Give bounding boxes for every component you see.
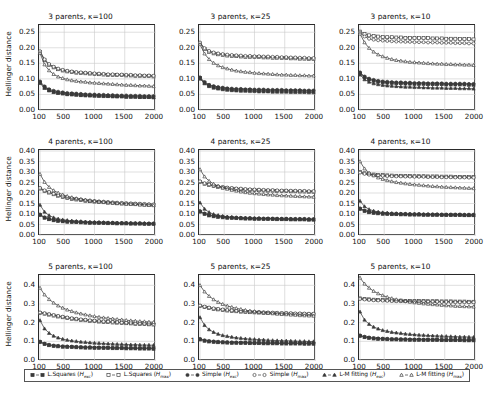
panel-title: 5 parents, κ=10 xyxy=(322,262,479,271)
x-tick-label: 1500 xyxy=(275,112,293,121)
series-2 xyxy=(199,76,315,92)
chart-panel-8: 5 parents, κ=250.00.10.20.30.41005001000… xyxy=(162,262,319,384)
series-1 xyxy=(359,30,475,41)
y-tick-label: 0.10 xyxy=(322,209,355,218)
plot-canvas xyxy=(199,275,316,361)
legend-marker-triangle-filled xyxy=(322,371,337,379)
series-4 xyxy=(38,82,155,99)
legend-marker-triangle-open xyxy=(399,371,414,379)
y-tick-label: 0.2 xyxy=(322,317,355,326)
legend-label-text: Simple ( xyxy=(270,371,294,377)
x-tick-label: 1000 xyxy=(244,112,262,121)
legend-label-text: Simple ( xyxy=(202,371,226,377)
legend-label-text: L-M fitting ( xyxy=(416,371,449,377)
y-tick-label: 0.05 xyxy=(162,89,195,98)
x-tick-label: 500 xyxy=(56,237,70,246)
legend-label-tail: ) xyxy=(383,371,385,377)
series-4 xyxy=(198,201,315,221)
series-5 xyxy=(38,51,155,87)
legend-label: L-M fitting (Hmax) xyxy=(416,371,464,379)
legend-label-text: L.Squares ( xyxy=(48,371,80,377)
plot-canvas xyxy=(39,150,156,236)
plot-canvas xyxy=(359,275,476,361)
y-tick-label: 0.15 xyxy=(162,198,195,207)
legend-item-simple-max[interactable]: Simple (Hmax) xyxy=(252,371,308,379)
plot-canvas xyxy=(359,25,476,111)
y-tick-label: 0.25 xyxy=(322,177,355,186)
y-tick-label: 0.00 xyxy=(322,230,355,239)
y-tick-label: 0.0 xyxy=(2,355,35,364)
y-tick-label: 0.1 xyxy=(322,336,355,345)
x-tick-label: 1500 xyxy=(435,112,453,121)
legend-marker-circle-open xyxy=(252,371,267,379)
x-tick-label: 1000 xyxy=(84,237,102,246)
legend-label: L.Squares (Hexc) xyxy=(48,371,93,379)
plot-canvas xyxy=(359,150,476,236)
y-tick-label: 0.3 xyxy=(162,299,195,308)
x-tick-label: 1000 xyxy=(84,112,102,121)
y-tick-label: 0.40 xyxy=(322,146,355,155)
series-3 xyxy=(199,180,315,193)
y-tick-label: 0.00 xyxy=(2,105,35,114)
plot-canvas xyxy=(199,25,316,111)
legend: L.Squares (Hexc)L.Squares (Hmax)Simple (… xyxy=(24,369,470,382)
series-3 xyxy=(359,171,475,179)
series-4 xyxy=(358,73,475,90)
y-tick-label: 0.00 xyxy=(322,105,355,114)
series-5 xyxy=(358,32,475,66)
plot-area xyxy=(38,274,155,360)
plot-area xyxy=(358,274,475,360)
x-tick-label: 100 xyxy=(32,237,46,246)
y-tick-label: 0.30 xyxy=(322,167,355,176)
legend-item-lsquares-exc[interactable]: L.Squares (Hexc) xyxy=(30,371,93,379)
panel-title: 3 parents, κ=100 xyxy=(2,12,159,21)
x-tick-label: 1500 xyxy=(435,237,453,246)
legend-label-text: L.Squares ( xyxy=(124,371,156,377)
y-tick-label: 0.0 xyxy=(162,355,195,364)
legend-label-subscript: max xyxy=(160,375,169,380)
y-axis-label: Hellinger distance xyxy=(4,287,13,347)
plot-area xyxy=(198,274,315,360)
legend-item-lm-fitting-exc[interactable]: L-M fitting (Hexc) xyxy=(322,371,385,379)
y-tick-label: 0.25 xyxy=(162,27,195,36)
y-tick-label: 0.25 xyxy=(322,27,355,36)
chart-panel-6: 4 parents, κ=100.000.050.100.150.200.250… xyxy=(322,137,479,259)
x-tick-label: 2000 xyxy=(305,112,323,121)
x-tick-label: 100 xyxy=(192,112,206,121)
chart-panel-4: 4 parents, κ=1000.000.050.100.150.200.25… xyxy=(2,137,159,259)
series-1 xyxy=(39,311,155,326)
series-1 xyxy=(199,305,315,316)
panel-title: 3 parents, κ=25 xyxy=(162,12,319,21)
y-tick-label: 0.4 xyxy=(322,280,355,289)
y-tick-label: 0.40 xyxy=(162,146,195,155)
plot-canvas xyxy=(39,25,156,111)
plot-area xyxy=(358,24,475,110)
legend-item-simple-exc[interactable]: Simple (Hexc) xyxy=(185,371,239,379)
y-tick-label: 0.00 xyxy=(162,105,195,114)
legend-item-lsquares-max[interactable]: L.Squares (Hmax) xyxy=(106,371,171,379)
legend-label-tail: ) xyxy=(462,371,464,377)
legend-item-lm-fitting-max[interactable]: L-M fitting (Hmax) xyxy=(399,371,464,379)
chart-panel-7: 5 parents, κ=1000.00.10.20.30.4100500100… xyxy=(2,262,159,384)
plot-area xyxy=(198,149,315,235)
chart-panel-1: 3 parents, κ=1000.000.050.100.150.200.25… xyxy=(2,12,159,134)
y-tick-label: 0.00 xyxy=(162,230,195,239)
y-tick-label: 0.30 xyxy=(162,167,195,176)
x-tick-label: 1500 xyxy=(275,237,293,246)
y-tick-label: 0.10 xyxy=(162,73,195,82)
y-axis-label: Hellinger distance xyxy=(4,162,13,222)
legend-label: Simple (Hexc) xyxy=(202,371,239,379)
y-tick-label: 0.15 xyxy=(162,58,195,67)
y-tick-label: 0.05 xyxy=(322,89,355,98)
x-tick-label: 2000 xyxy=(145,237,163,246)
x-tick-label: 1000 xyxy=(404,237,422,246)
legend-label-subscript: max xyxy=(298,375,307,380)
y-tick-label: 0.35 xyxy=(162,156,195,165)
plot-area xyxy=(198,24,315,110)
panel-title: 5 parents, κ=25 xyxy=(162,262,319,271)
panel-title: 3 parents, κ=10 xyxy=(322,12,479,21)
x-tick-label: 1000 xyxy=(244,237,262,246)
series-5 xyxy=(358,276,475,308)
x-tick-label: 500 xyxy=(56,112,70,121)
legend-label-subscript: exc xyxy=(84,375,91,380)
